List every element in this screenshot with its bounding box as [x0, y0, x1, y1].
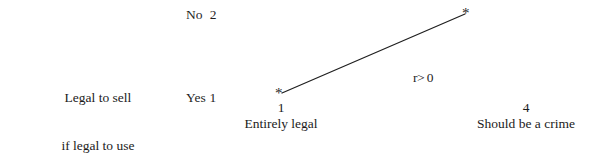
row-variable-description: Legal to sell if legal to use [61, 58, 134, 155]
interaction-plot-figure: MJ – Legal to sell if legal to use No 2 … [0, 0, 611, 155]
x-axis-anchor-right: 4 Should be a crime [455, 100, 597, 132]
trend-line-segment [282, 14, 465, 93]
correlation-annotation: r> 0 [413, 70, 433, 85]
row-variable-description-line-1: Legal to sell [61, 90, 134, 106]
x-axis-left-value: 1 [228, 100, 334, 116]
x-axis-right-value: 4 [455, 100, 597, 116]
y-axis-category-no: No 2 [186, 7, 217, 22]
row-variable-description-line-2: if legal to use [61, 138, 134, 154]
x-axis-anchor-left: 1 Entirely legal [228, 100, 334, 132]
x-axis-left-label: Entirely legal [228, 116, 334, 132]
data-point-marker-right: * [462, 6, 470, 21]
row-variable-group: MJ – Legal to sell if legal to use [28, 58, 135, 155]
x-axis-right-label: Should be a crime [455, 116, 597, 132]
y-axis-category-yes: Yes 1 [186, 90, 216, 105]
data-point-marker-left: * [275, 86, 283, 101]
